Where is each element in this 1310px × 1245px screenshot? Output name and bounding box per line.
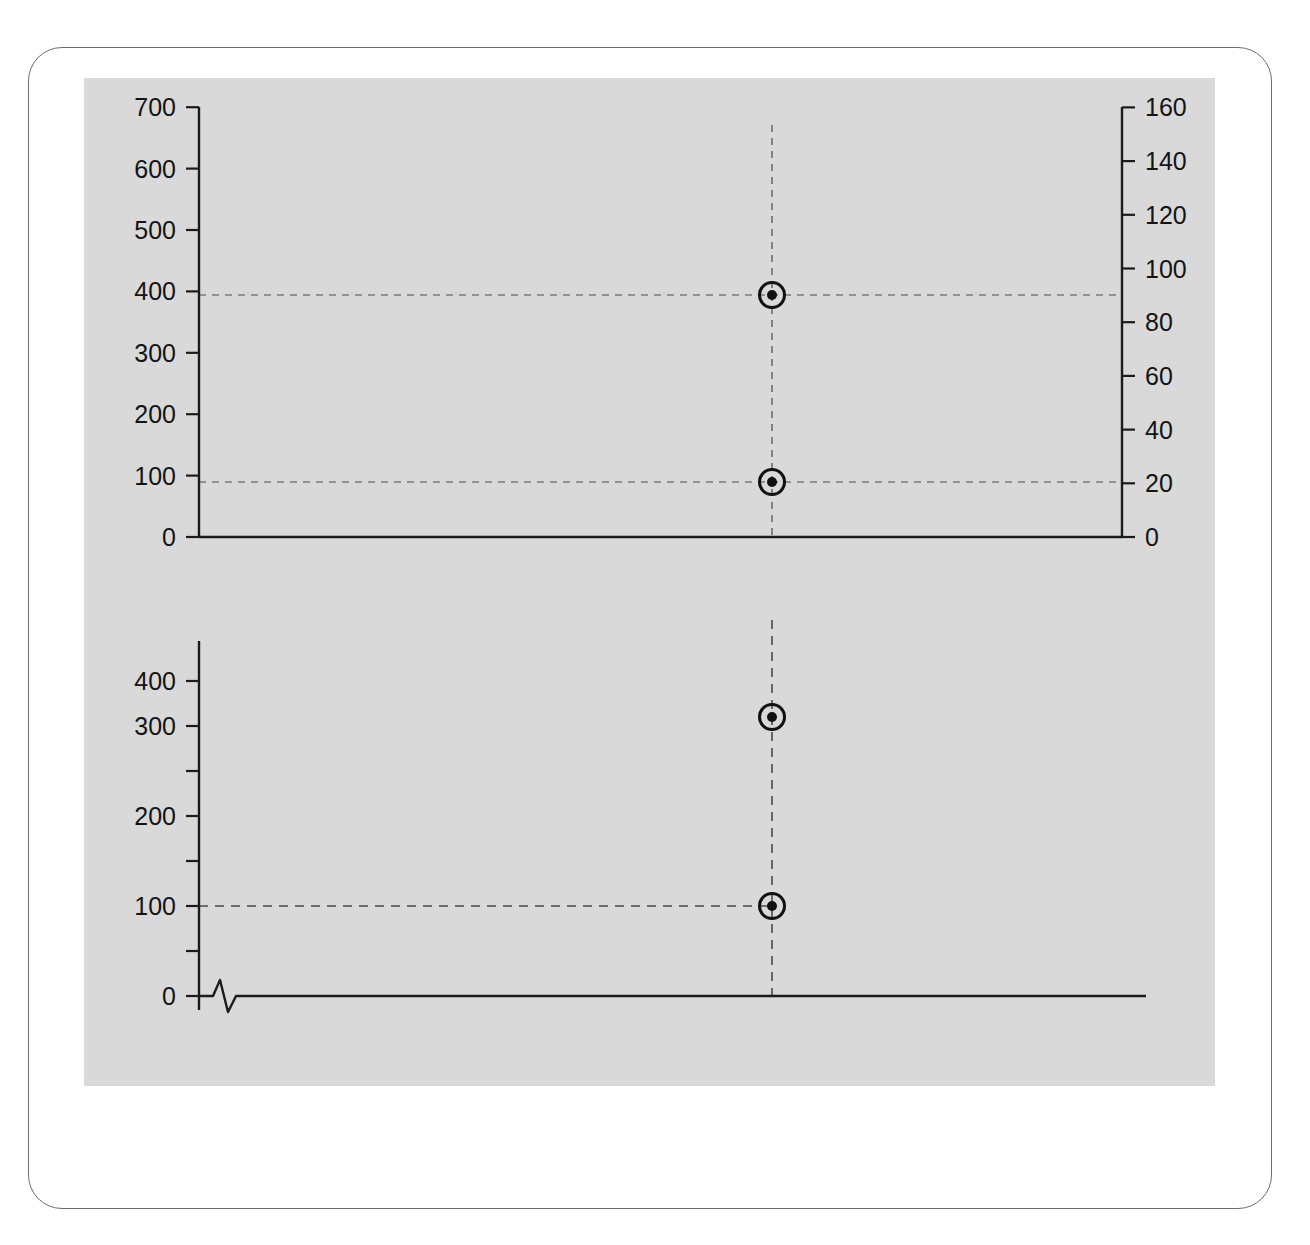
svg-text:300: 300	[134, 339, 176, 367]
top-left-ticklabels: 0 100 200 300 400 500 600 700	[134, 93, 176, 551]
svg-text:120: 120	[1145, 201, 1187, 229]
figure-chart-svg: 0 100 200 300 400 500 600 700 0 20 40 60	[0, 0, 1310, 1245]
svg-text:100: 100	[1145, 255, 1187, 283]
svg-text:0: 0	[1145, 523, 1159, 551]
svg-text:160: 160	[1145, 93, 1187, 121]
svg-text:20: 20	[1145, 469, 1173, 497]
top-right-ticks	[1122, 107, 1135, 537]
svg-text:80: 80	[1145, 308, 1173, 336]
svg-text:200: 200	[134, 400, 176, 428]
svg-text:100: 100	[134, 462, 176, 490]
svg-text:500: 500	[134, 216, 176, 244]
svg-text:100: 100	[134, 892, 176, 920]
figure-caption-block	[112, 1118, 1112, 1127]
bottom-y-ticks	[186, 681, 199, 996]
bottom-chart: 0 100 200 300 400	[134, 620, 1146, 1012]
top-right-ticklabels: 0 20 40 60 80 100 120 140 160	[1145, 93, 1187, 551]
svg-text:0: 0	[162, 982, 176, 1010]
svg-text:600: 600	[134, 155, 176, 183]
bottom-x-axis-with-break	[199, 980, 1146, 1012]
bottom-y-ticklabels: 0 100 200 300 400	[134, 667, 176, 1010]
top-chart: 0 100 200 300 400 500 600 700 0 20 40 60	[134, 93, 1186, 551]
svg-text:400: 400	[134, 277, 176, 305]
svg-text:60: 60	[1145, 362, 1173, 390]
top-left-ticks	[186, 107, 199, 537]
svg-text:0: 0	[162, 523, 176, 551]
svg-text:400: 400	[134, 667, 176, 695]
svg-text:200: 200	[134, 802, 176, 830]
svg-text:140: 140	[1145, 147, 1187, 175]
svg-text:300: 300	[134, 712, 176, 740]
svg-text:40: 40	[1145, 416, 1173, 444]
svg-text:700: 700	[134, 93, 176, 121]
